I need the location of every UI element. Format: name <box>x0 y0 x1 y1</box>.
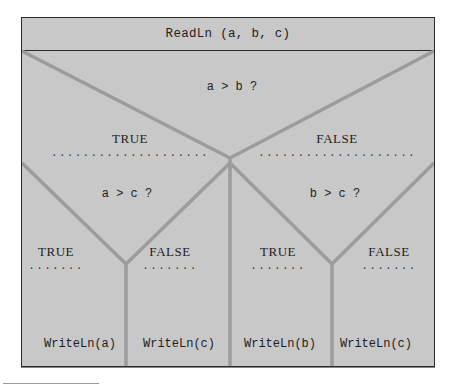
main-true-dots: .................... <box>51 149 209 157</box>
condition-a-gt-c: a > c ? <box>102 187 152 201</box>
action-writeln-c-left: WriteLn(c) <box>143 337 215 351</box>
branch-lines <box>22 18 434 366</box>
structogram: ReadLn (a, b, c) a > b ? TRUE ..........… <box>21 17 435 367</box>
condition-a-gt-b: a > b ? <box>207 80 257 94</box>
action-writeln-a: WriteLn(a) <box>44 337 116 351</box>
right-false-dots: ....... <box>361 262 416 270</box>
left-true-label: TRUE <box>38 244 74 260</box>
left-true-dots: ....... <box>28 262 83 270</box>
condition-b-gt-c: b > c ? <box>310 187 360 201</box>
action-writeln-c-right: WriteLn(c) <box>340 337 412 351</box>
left-false-label: FALSE <box>149 244 190 260</box>
left-false-dots: ....... <box>142 262 197 270</box>
footnote-rule <box>3 383 99 384</box>
right-true-dots: ....... <box>250 262 305 270</box>
main-false-dots: .................... <box>258 149 416 157</box>
right-false-label: FALSE <box>368 244 409 260</box>
main-false-label: FALSE <box>316 131 357 147</box>
action-writeln-b: WriteLn(b) <box>244 337 316 351</box>
main-true-label: TRUE <box>112 131 148 147</box>
right-true-label: TRUE <box>260 244 296 260</box>
